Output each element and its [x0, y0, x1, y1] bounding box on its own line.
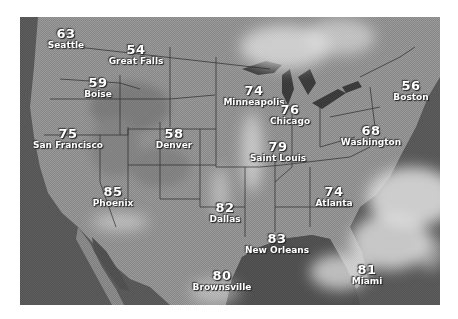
city-name: Great Falls: [109, 57, 164, 66]
city-label-boise: 59 Boise: [84, 76, 112, 99]
temperature: 54: [109, 43, 164, 56]
city-label-new-orleans: 83 New Orleans: [245, 232, 309, 255]
city-label-boston: 56 Boston: [393, 79, 428, 102]
temperature: 68: [341, 124, 401, 137]
city-name: Brownsville: [193, 283, 252, 292]
temperature: 80: [193, 269, 252, 282]
temperature: 63: [48, 27, 84, 40]
city-name: Denver: [156, 141, 192, 150]
temperature: 74: [223, 84, 284, 97]
city-name: Phoenix: [93, 199, 134, 208]
map-background: [20, 17, 440, 305]
city-name: Boise: [84, 90, 112, 99]
city-name: Miami: [352, 277, 383, 286]
temperature: 76: [270, 103, 310, 116]
city-label-dallas: 82 Dallas: [209, 201, 240, 224]
city-name: Saint Louis: [250, 154, 306, 163]
city-name: Dallas: [209, 215, 240, 224]
city-label-san-francisco: 75 San Francisco: [33, 127, 103, 150]
city-name: Boston: [393, 93, 428, 102]
city-name: Washington: [341, 138, 401, 147]
satellite-map[interactable]: 63 Seattle 54 Great Falls 59 Boise 75 Sa…: [20, 17, 440, 305]
city-label-atlanta: 74 Atlanta: [315, 185, 352, 208]
city-name: Seattle: [48, 41, 84, 50]
city-name: Atlanta: [315, 199, 352, 208]
city-label-chicago: 76 Chicago: [270, 103, 310, 126]
city-label-phoenix: 85 Phoenix: [93, 185, 134, 208]
temperature: 85: [93, 185, 134, 198]
city-label-brownsville: 80 Brownsville: [193, 269, 252, 292]
temperature: 82: [209, 201, 240, 214]
temperature: 74: [315, 185, 352, 198]
city-name: Chicago: [270, 117, 310, 126]
temperature: 79: [250, 140, 306, 153]
temperature: 56: [393, 79, 428, 92]
temperature: 75: [33, 127, 103, 140]
temperature: 83: [245, 232, 309, 245]
city-label-seattle: 63 Seattle: [48, 27, 84, 50]
city-name: San Francisco: [33, 141, 103, 150]
city-label-washington: 68 Washington: [341, 124, 401, 147]
temperature: 59: [84, 76, 112, 89]
temperature: 81: [352, 263, 383, 276]
temperature: 58: [156, 127, 192, 140]
city-name: New Orleans: [245, 246, 309, 255]
city-label-miami: 81 Miami: [352, 263, 383, 286]
city-label-great-falls: 54 Great Falls: [109, 43, 164, 66]
city-label-saint-louis: 79 Saint Louis: [250, 140, 306, 163]
city-label-denver: 58 Denver: [156, 127, 192, 150]
